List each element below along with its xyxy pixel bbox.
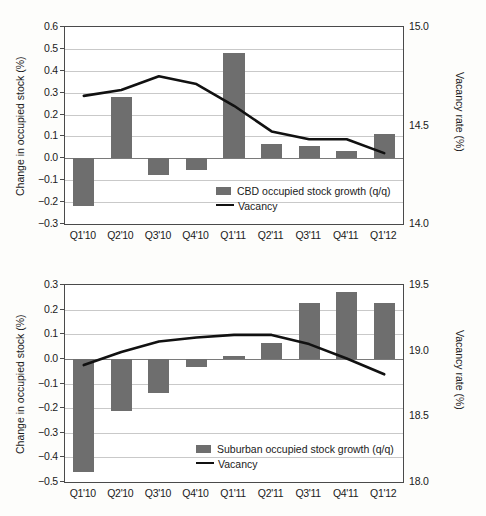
- y-tick-mark-left: [60, 157, 64, 158]
- y-tick-label-left: −0.3: [18, 427, 58, 437]
- legend-label-bars-cbd: CBD occupied stock growth (q/q): [237, 185, 390, 197]
- legend-item-line-suburban: Vacancy: [196, 458, 394, 470]
- y-tick-mark-left: [60, 48, 64, 49]
- chart-panel-suburban: Change in occupied stock (%) Vacancy rat…: [0, 258, 486, 516]
- y-tick-mark-left: [60, 407, 64, 408]
- y-axis-label-right-suburban: Vacancy rate (%): [454, 330, 466, 410]
- y-tick-mark-left: [60, 432, 64, 433]
- y-tick-label-left: 0.1: [18, 130, 58, 140]
- y-tick-mark-left: [60, 201, 64, 202]
- legend-label-bars-suburban: Suburban occupied stock growth (q/q): [217, 443, 394, 455]
- y-tick-label-left: 0.5: [18, 43, 58, 53]
- chart-page: Change in occupied stock (%) Vacancy rat…: [0, 0, 486, 516]
- y-tick-label-left: 0.4: [18, 65, 58, 75]
- y-tick-mark-left: [60, 223, 64, 224]
- y-tick-label-left: −0.1: [18, 174, 58, 184]
- y-tick-label-right: 18.5: [409, 410, 451, 420]
- legend-item-line-cbd: Vacancy: [216, 200, 390, 212]
- legend-line-swatch-icon: [216, 204, 234, 206]
- y-tick-mark-left: [60, 179, 64, 180]
- legend-line-swatch-icon: [196, 462, 214, 464]
- y-tick-label-left: 0.0: [18, 152, 58, 162]
- y-tick-label-right: 14.5: [409, 120, 451, 130]
- y-tick-label-left: −0.2: [18, 402, 58, 412]
- y-tick-mark-left: [60, 456, 64, 457]
- x-tick-label: Q1'12: [358, 229, 408, 241]
- y-tick-label-left: −0.5: [18, 476, 58, 486]
- y-tick-mark-left: [60, 358, 64, 359]
- y-tick-label-left: 0.0: [18, 353, 58, 363]
- y-tick-label-left: 0.2: [18, 304, 58, 314]
- y-tick-label-left: −0.4: [18, 451, 58, 461]
- y-tick-mark-left: [60, 333, 64, 334]
- y-tick-label-left: 0.3: [18, 87, 58, 97]
- y-tick-label-right: 19.0: [409, 345, 451, 355]
- y-axis-label-right-cbd: Vacancy rate (%): [454, 72, 466, 152]
- y-tick-label-left: −0.3: [18, 218, 58, 228]
- y-tick-label-left: 0.6: [18, 21, 58, 31]
- y-tick-mark-left: [60, 481, 64, 482]
- vacancy-line-path: [84, 335, 384, 374]
- chart-panel-cbd: Change in occupied stock (%) Vacancy rat…: [0, 0, 486, 258]
- y-tick-mark-left: [60, 284, 64, 285]
- y-tick-label-right: 15.0: [409, 21, 451, 31]
- y-tick-label-right: 18.0: [409, 476, 451, 486]
- y-tick-label-right: 19.5: [409, 279, 451, 289]
- legend-cbd: CBD occupied stock growth (q/q) Vacancy: [216, 185, 390, 215]
- y-tick-label-left: 0.3: [18, 279, 58, 289]
- legend-label-line-cbd: Vacancy: [238, 200, 278, 212]
- y-tick-label-right: 14.0: [409, 218, 451, 228]
- y-tick-mark-left: [60, 135, 64, 136]
- legend-bar-swatch-icon: [196, 445, 211, 453]
- y-tick-label-left: 0.1: [18, 328, 58, 338]
- y-tick-mark-left: [60, 70, 64, 71]
- legend-item-bars-suburban: Suburban occupied stock growth (q/q): [196, 443, 394, 455]
- legend-item-bars-cbd: CBD occupied stock growth (q/q): [216, 185, 390, 197]
- legend-label-line-suburban: Vacancy: [218, 458, 258, 470]
- y-tick-mark-left: [60, 309, 64, 310]
- legend-bar-swatch-icon: [216, 187, 231, 195]
- y-tick-mark-left: [60, 26, 64, 27]
- x-tick-label: Q1'12: [358, 487, 408, 499]
- y-tick-label-left: −0.2: [18, 196, 58, 206]
- y-tick-label-left: −0.1: [18, 378, 58, 388]
- legend-suburban: Suburban occupied stock growth (q/q) Vac…: [196, 443, 394, 473]
- y-tick-mark-left: [60, 114, 64, 115]
- y-tick-label-left: 0.2: [18, 109, 58, 119]
- y-tick-mark-left: [60, 92, 64, 93]
- y-tick-mark-left: [60, 383, 64, 384]
- vacancy-line-path: [84, 76, 384, 153]
